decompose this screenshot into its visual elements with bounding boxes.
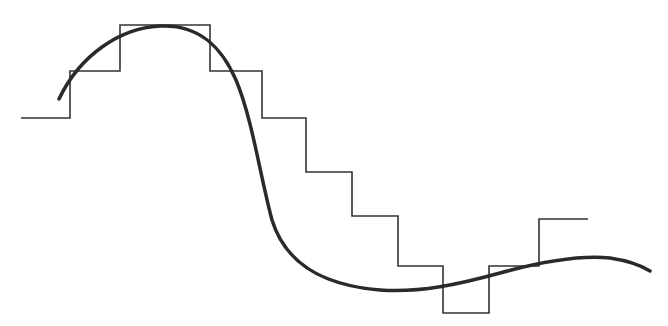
smooth-curve-line: [59, 26, 650, 291]
diagram-canvas: [0, 0, 668, 326]
step-function-line: [21, 25, 588, 313]
diagram-svg: [0, 0, 668, 326]
